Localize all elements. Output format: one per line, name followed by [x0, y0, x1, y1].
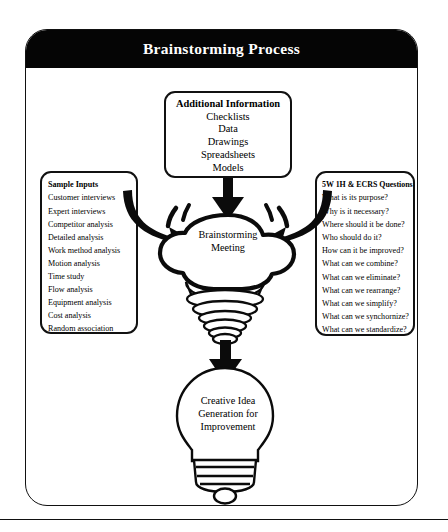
additional-information-item: Data [170, 123, 286, 136]
questions-item: What can we simplify? [322, 297, 413, 310]
output-node-line-1: Creative Idea [176, 394, 280, 407]
questions-heading: 5W 1H & ECRS Questions [322, 179, 413, 191]
spark-lines-left [168, 205, 189, 226]
questions-item: Why is it necessary? [322, 205, 413, 218]
sample-inputs-item: Motion analysis [48, 257, 136, 270]
additional-information-heading: Additional Information [170, 98, 286, 111]
questions-item: What can we rearrange? [322, 284, 413, 297]
bottom-divider [0, 519, 448, 520]
sample-inputs-item: Equipment analysis [48, 296, 136, 309]
sample-inputs-box: Sample Inputs Customer interviews Expert… [40, 171, 138, 334]
questions-item: What can we eliminate? [322, 271, 413, 284]
sample-inputs-item: Random association [48, 322, 136, 335]
questions-item: Where should it be done? [322, 218, 413, 231]
sample-inputs-item: Time study [48, 270, 136, 283]
arrow-down-top [212, 178, 244, 220]
center-node-label: Brainstorming Meeting [169, 228, 287, 254]
sample-inputs-item: Work method analysis [48, 244, 136, 257]
questions-box: 5W 1H & ECRS Questions What is its purpo… [315, 171, 415, 336]
sample-inputs-item: Customer interviews [48, 191, 136, 204]
questions-item: What can we combine? [322, 257, 413, 270]
output-node-label: Creative Idea Generation for Improvement [176, 394, 280, 434]
tornado-funnel [186, 282, 264, 344]
additional-information-item: Models [170, 162, 286, 175]
questions-item: How can it be improved? [322, 244, 413, 257]
additional-information-item: Drawings [170, 136, 286, 149]
additional-information-box: Additional Information Checklists Data D… [164, 91, 292, 178]
diagram-title-bar: Brainstorming Process [26, 30, 417, 68]
additional-information-item: Spreadsheets [170, 149, 286, 162]
sample-inputs-item: Competitor analysis [48, 218, 136, 231]
center-node-line-2: Meeting [169, 241, 287, 254]
questions-item: What can we synchornize? [322, 310, 413, 323]
arrow-down-bottom [209, 340, 242, 383]
sample-inputs-item: Flow analysis [48, 283, 136, 296]
questions-item: What is its purpose? [322, 191, 413, 204]
questions-item: Who should do it? [322, 231, 413, 244]
sample-inputs-item: Detailed analysis [48, 231, 136, 244]
center-node-line-1: Brainstorming [169, 228, 287, 241]
output-node-line-2: Generation for [176, 407, 280, 420]
page-title: Brainstorming Process [143, 40, 300, 58]
questions-item: What can we standardize? [322, 323, 413, 336]
sample-inputs-item: Cost analysis [48, 309, 136, 322]
spark-lines-right [266, 205, 287, 226]
sample-inputs-heading: Sample Inputs [48, 179, 136, 191]
sample-inputs-item: Expert interviews [48, 205, 136, 218]
output-node-line-3: Improvement [176, 420, 280, 433]
diagram-frame: Brainstorming Process Additional Informa… [25, 29, 418, 506]
additional-information-item: Checklists [170, 111, 286, 124]
creative-idea-bulb [177, 368, 273, 504]
